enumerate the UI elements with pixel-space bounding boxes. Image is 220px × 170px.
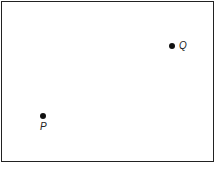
point-q-marker xyxy=(169,43,175,49)
point-p-marker xyxy=(40,113,46,119)
diagram-frame xyxy=(1,1,214,162)
point-p-label: P xyxy=(40,122,47,132)
point-q-label: Q xyxy=(179,41,187,51)
